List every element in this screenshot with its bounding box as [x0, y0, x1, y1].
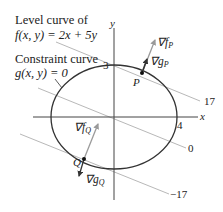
constraint-curve-label-line2: g(x, y) = 0 [15, 67, 68, 80]
grad-f-p-label: ∇fP [157, 37, 173, 50]
nabla-g-symbol: ∇g [150, 55, 164, 67]
nabla-g-symbol: ∇g [85, 173, 99, 185]
point-p-label: P [133, 77, 140, 88]
grad-f-p-subscript: P [168, 41, 173, 50]
y-axis-label: y [110, 18, 115, 29]
lagrange-diagram: Level curve of f(x, y) = 2x + 5y Constra… [0, 0, 223, 212]
grad-g-q-label: ∇gQ [85, 174, 105, 187]
nabla-f-symbol: ∇f [157, 36, 168, 48]
level-value-17: 17 [204, 96, 215, 107]
grad-f-q-subscript: Q [85, 126, 91, 135]
point-q-label: Q [73, 157, 81, 168]
point-p [140, 71, 144, 75]
grad-g-p-subscript: P [164, 60, 169, 69]
grad-f-q-label: ∇fQ [74, 122, 91, 135]
x-axis-label: x [200, 111, 205, 122]
grad-g-p-label: ∇gP [150, 56, 169, 69]
nabla-f-symbol: ∇f [74, 121, 85, 133]
y-intercept-tick: 3 [103, 60, 109, 71]
constraint-curve-label-line1: Constraint curve [15, 53, 98, 66]
level-line-0 [38, 88, 186, 148]
level-curve-label-line2: f(x, y) = 2x + 5y [15, 29, 97, 42]
constraint-leader-line [55, 79, 62, 88]
grad-g-q-subscript: Q [99, 178, 105, 187]
level-value-minus-17: −17 [170, 189, 187, 200]
point-q [82, 157, 86, 161]
level-value-0: 0 [188, 143, 194, 154]
level-curve-label-line1: Level curve of [15, 14, 88, 27]
level-line-17 [56, 42, 200, 101]
x-intercept-tick: 4 [177, 120, 183, 131]
